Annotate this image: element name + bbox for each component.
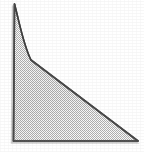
shaded-region-interior-shade <box>14 4 139 141</box>
shaded-region-figure <box>0 0 144 152</box>
figure-container <box>0 0 144 152</box>
edge-left-side <box>14 4 15 141</box>
